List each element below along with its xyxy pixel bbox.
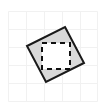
geometry-figure bbox=[0, 0, 102, 105]
inner-dashed-square bbox=[42, 43, 70, 69]
figure-canvas bbox=[0, 0, 102, 105]
